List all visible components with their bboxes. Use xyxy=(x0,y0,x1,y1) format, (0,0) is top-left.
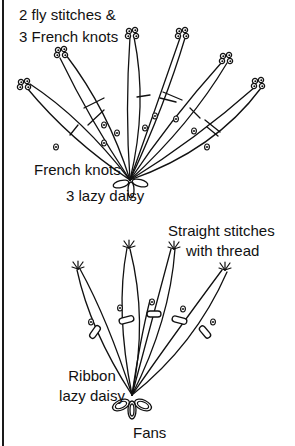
label-french-knots: French knots xyxy=(34,161,121,179)
label-lazy-daisy: 3 lazy daisy xyxy=(66,187,144,205)
top-fan xyxy=(27,37,261,180)
top-fan-beads xyxy=(54,113,210,150)
label-ribbon: Ribbon xyxy=(52,367,132,385)
label-straight-stitches: Straight stitches xyxy=(168,222,275,240)
label-french-knots-top: 3 French knots xyxy=(19,28,118,46)
label-fly-stitches: 2 fly stitches & xyxy=(19,6,116,24)
label-fans: Fans xyxy=(133,424,166,442)
label-ribbon-lazy-daisy: lazy daisy xyxy=(52,387,132,405)
label-with-thread: with thread xyxy=(186,242,259,260)
